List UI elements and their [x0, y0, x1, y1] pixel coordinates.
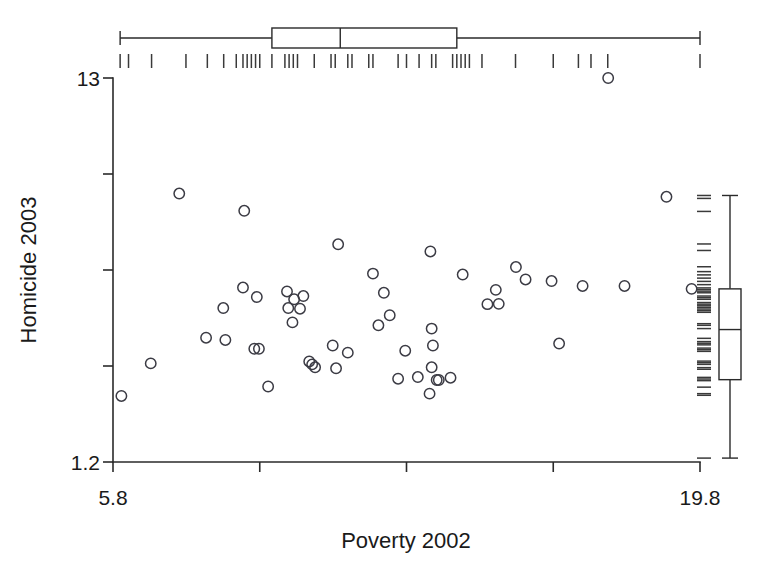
data-point [220, 335, 230, 345]
data-point [413, 372, 423, 382]
data-point [328, 340, 338, 350]
data-point [333, 239, 343, 249]
data-point [174, 188, 184, 198]
data-point [201, 332, 211, 342]
scatter-plot-figure: 5.8 19.8 13 1.2 Poverty 2002 Homicide 20… [0, 0, 762, 568]
data-point [425, 246, 435, 256]
y-marginal-rug [697, 195, 711, 458]
data-point [603, 73, 613, 83]
data-point [393, 373, 403, 383]
axes [103, 78, 700, 472]
data-point [494, 299, 504, 309]
x-box-iqr [272, 28, 457, 48]
data-point [263, 381, 273, 391]
data-point [146, 358, 156, 368]
scatter-points-group [116, 73, 697, 401]
data-point [546, 276, 556, 286]
data-point [428, 340, 438, 350]
data-point [511, 262, 521, 272]
data-point [619, 281, 629, 291]
data-point [295, 304, 305, 314]
y-axis-ticks [103, 78, 113, 462]
y-box-iqr [719, 289, 741, 380]
y-axis-min-tick-label: 1.2 [71, 451, 100, 474]
data-point [400, 346, 410, 356]
data-point [482, 299, 492, 309]
x-axis-min-tick-label: 5.8 [98, 486, 127, 509]
data-point [304, 356, 314, 366]
data-point [661, 192, 671, 202]
data-point [426, 323, 436, 333]
data-point [385, 310, 395, 320]
y-axis-max-tick-label: 13 [77, 67, 100, 90]
x-marginal-boxplot [120, 28, 700, 48]
data-point [331, 363, 341, 373]
x-axis-title: Poverty 2002 [341, 528, 471, 553]
data-point [554, 338, 564, 348]
y-axis-title: Homicide 2003 [16, 197, 41, 344]
data-point [310, 362, 320, 372]
x-axis-max-tick-label: 19.8 [680, 486, 721, 509]
data-point [491, 285, 501, 295]
data-point [343, 347, 353, 357]
data-point [287, 317, 297, 327]
data-point [520, 274, 530, 284]
data-point [426, 362, 436, 372]
data-point [577, 281, 587, 291]
data-point [373, 320, 383, 330]
y-marginal-boxplot [719, 195, 741, 458]
x-axis-ticks [113, 462, 700, 472]
data-point [424, 388, 434, 398]
data-point [116, 391, 126, 401]
data-point [445, 373, 455, 383]
data-point [239, 206, 249, 216]
data-point [379, 288, 389, 298]
data-point [218, 303, 228, 313]
data-point [238, 282, 248, 292]
plot-canvas: 5.8 19.8 13 1.2 Poverty 2002 Homicide 20… [0, 0, 762, 568]
data-point [252, 292, 262, 302]
data-point [686, 284, 696, 294]
x-marginal-rug [120, 54, 700, 68]
data-point [283, 303, 293, 313]
data-point [307, 359, 317, 369]
data-point [368, 268, 378, 278]
data-point [457, 269, 467, 279]
